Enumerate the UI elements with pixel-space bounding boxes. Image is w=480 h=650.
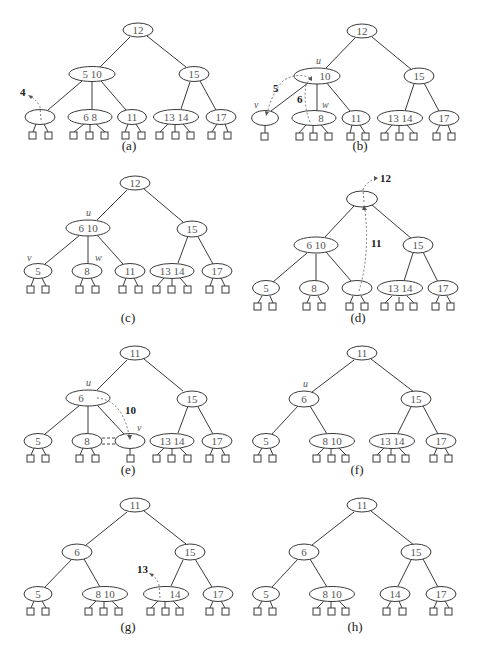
svg-text:8: 8 <box>311 282 317 294</box>
node-label-u: u <box>86 377 91 388</box>
svg-text:15: 15 <box>185 546 197 558</box>
svg-text:6 10: 6 10 <box>306 239 326 251</box>
node-label-v: v <box>137 422 142 433</box>
svg-text:5: 5 <box>263 435 269 447</box>
svg-text:12: 12 <box>130 177 141 189</box>
svg-text:17: 17 <box>216 111 228 123</box>
root-node: 12 <box>347 24 377 38</box>
panel-g: 11 6 15 5 8 10 14 17 13 (g) <box>0 490 240 650</box>
svg-text:13 14: 13 14 <box>160 265 185 277</box>
node-label-w: w <box>322 99 329 110</box>
internal-node-u: 6 10 <box>66 220 110 236</box>
external-leaves <box>27 286 229 293</box>
svg-text:12: 12 <box>133 24 144 36</box>
panel-caption: (d) <box>350 310 365 325</box>
svg-text:5: 5 <box>35 265 41 277</box>
svg-text:5 10: 5 10 <box>82 68 102 80</box>
svg-text:8: 8 <box>318 112 324 124</box>
svg-text:14: 14 <box>170 588 182 600</box>
leaf-parent-node: 6 8 <box>68 110 112 125</box>
svg-text:12: 12 <box>380 172 392 184</box>
panel-caption: (g) <box>120 619 135 634</box>
svg-text:17: 17 <box>213 588 225 600</box>
panel-caption: (e) <box>121 462 135 477</box>
svg-text:15: 15 <box>189 68 201 80</box>
svg-text:17: 17 <box>438 282 450 294</box>
svg-text:8 10: 8 10 <box>95 588 115 600</box>
svg-text:17: 17 <box>212 435 224 447</box>
svg-text:11: 11 <box>125 265 136 277</box>
svg-text:11: 11 <box>130 347 141 359</box>
leaf-parent-node: 5 <box>24 434 52 449</box>
internal-node: 6 <box>62 544 92 560</box>
internal-node: 15 <box>401 544 431 560</box>
external-leaves <box>27 608 229 615</box>
svg-text:5: 5 <box>35 435 41 447</box>
node-w: 8 <box>72 264 102 279</box>
svg-text:15: 15 <box>414 70 426 82</box>
svg-text:6: 6 <box>78 392 84 404</box>
root-node: 11 <box>347 498 377 512</box>
svg-text:5: 5 <box>263 588 269 600</box>
svg-text:13 14: 13 14 <box>164 111 189 123</box>
svg-text:11: 11 <box>371 237 381 249</box>
leaf-parent-node: 17 <box>429 111 459 126</box>
panel-h: 11 6 15 5 8 10 14 17 (h) <box>240 490 480 650</box>
internal-node: 15 <box>175 544 205 560</box>
leaf-parent-node: 8 10 <box>310 434 355 449</box>
leaf-parent-node: 13 14 <box>150 434 194 449</box>
node-label-u: u <box>86 207 91 218</box>
svg-text:11: 11 <box>351 112 362 124</box>
svg-text:5: 5 <box>273 82 279 94</box>
sibling-node-w: 8 <box>292 111 336 126</box>
internal-node: 6 10 <box>294 237 338 253</box>
svg-text:6 8: 6 8 <box>83 111 97 123</box>
internal-node-u: 10 <box>294 68 340 84</box>
svg-text:17: 17 <box>439 112 451 124</box>
internal-node: 5 10 <box>69 67 115 82</box>
panel-f: 11 6 u 15 5 8 10 13 14 17 (f) <box>240 330 480 490</box>
root-node: 12 <box>120 176 150 190</box>
panel-caption: (c) <box>121 310 135 325</box>
external-leaves <box>254 608 452 615</box>
svg-text:11: 11 <box>130 499 141 511</box>
external-leaves <box>254 455 452 462</box>
svg-text:6: 6 <box>74 546 80 558</box>
node-label-w: w <box>95 252 102 263</box>
svg-text:8: 8 <box>84 435 90 447</box>
external-leaves <box>254 303 454 310</box>
svg-text:4: 4 <box>20 86 26 98</box>
leaf-parent-node: 8 <box>72 434 102 449</box>
panel-a: 12 5 10 15 6 8 11 13 14 17 4 (a) <box>0 0 240 160</box>
svg-text:8: 8 <box>84 265 90 277</box>
internal-node: 6 <box>289 544 319 560</box>
svg-text:17: 17 <box>212 265 224 277</box>
fusion-link <box>102 438 116 444</box>
svg-text:10: 10 <box>125 404 137 416</box>
svg-text:8 10: 8 10 <box>322 588 342 600</box>
svg-text:6: 6 <box>301 546 307 558</box>
panel-c: 12 6 10 u 15 5 v 8 w 11 13 14 17 (c) <box>0 160 240 330</box>
leaf-parent-node: 13 14 <box>154 110 199 125</box>
svg-text:8 10: 8 10 <box>322 435 342 447</box>
internal-node: 15 <box>401 391 431 407</box>
leaf-parent-node: 5 <box>24 587 52 602</box>
leaf-parent-node: 13 14 <box>150 264 194 279</box>
panel-d: 6 10 15 5 8 13 14 17 12 11 <box>240 160 480 330</box>
panel-caption: (a) <box>122 138 136 153</box>
svg-text:15: 15 <box>187 223 199 235</box>
panel-caption: (h) <box>347 619 362 634</box>
leaf-parent-node: 11 <box>118 110 147 125</box>
empty-leaf-parent-node <box>342 281 372 296</box>
svg-text:15: 15 <box>187 393 199 405</box>
panel-e: 11 6 u 15 5 8 v 13 14 17 <box>0 330 240 490</box>
leaf-parent-node: 8 10 <box>83 587 128 602</box>
leaf-parent-node: 8 10 <box>310 587 355 602</box>
leaf-parent-node: 5 <box>253 434 280 449</box>
panel-caption: (f) <box>351 462 364 477</box>
internal-node: 15 <box>403 237 433 253</box>
internal-node: 15 <box>177 391 207 407</box>
svg-text:13 14: 13 14 <box>388 282 413 294</box>
tree-deletion-figure: 12 5 10 15 6 8 11 13 14 17 4 (a) <box>0 0 480 650</box>
underflow-node-v <box>252 111 279 126</box>
